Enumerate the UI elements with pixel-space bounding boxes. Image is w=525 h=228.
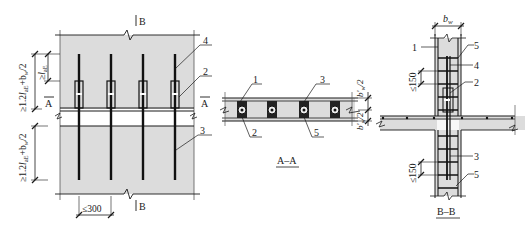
connection-detail-diagram: B B A A 4 2 3 ≥1.2laE+bw/2 [0,0,525,228]
section-mark-b-bottom: B [139,201,146,212]
bb-callout-5-top: 5 [474,40,479,51]
dim-spacing-label: ≤300 [82,204,102,214]
section-mark-b-top: B [139,16,146,27]
callout-4: 4 [203,35,208,46]
dimension-upper: ≥1.2laE+bw/2 [18,51,60,112]
bb-width-dimension: bw [432,13,464,36]
section-bb-view: bw ≤150 ≤150 1 5 4 2 3 [376,13,525,218]
aa-callout-2: 2 [252,127,257,138]
section-aa-view: 1 3 2 5 b'w/2 b'w/2 A–A [220,74,372,167]
sleeve-section-1 [237,101,247,118]
aa-dim-top-label: b'w/2 [355,79,366,97]
elevation-view: B B A A 4 2 3 ≥1.2laE+bw/2 [18,15,212,218]
aa-callout-3: 3 [320,74,325,85]
aa-callout-5: 5 [314,127,319,138]
bb-spacing-lower: ≤150 [408,159,438,183]
sleeve-section-3 [299,101,309,118]
bb-dim-spacing-upper: ≤150 [408,72,418,92]
bb-dim-spacing-lower: ≤150 [408,163,418,183]
bb-spacing-upper: ≤150 [408,68,438,92]
dim-lap-label: ≥laE [37,65,48,80]
dimension-lower: ≥1.2laE+bw/2 [18,123,48,183]
bb-callout-2: 2 [474,77,479,88]
aa-callout-1: 1 [253,74,258,85]
callout-3: 3 [200,125,205,136]
sleeve-section-4 [330,101,340,118]
section-mark-a-left: A [45,98,53,109]
bb-callout-4: 4 [474,60,479,71]
section-mark-a-right: A [201,98,209,109]
bb-callout-3: 3 [474,151,479,162]
dimension-lap: ≥laE [37,51,60,84]
section-bb-title: B–B [437,206,456,217]
bb-callout-5-bottom: 5 [474,169,479,180]
dim-upper-label: ≥1.2laE+bw/2 [18,63,29,112]
dimension-spacing: ≤300 [76,196,114,218]
upper-wall-section [435,38,461,116]
bb-dim-width-label: bw [443,13,453,26]
lower-wall-section [435,130,461,196]
section-aa-title: A–A [277,155,297,166]
dim-lower-label: ≥1.2laE+bw/2 [18,133,29,182]
aa-dimension: b'w/2 b'w/2 [355,79,372,130]
bb-callout-1: 1 [412,42,417,53]
sleeve-section-2 [267,101,277,118]
callout-2: 2 [203,66,208,77]
